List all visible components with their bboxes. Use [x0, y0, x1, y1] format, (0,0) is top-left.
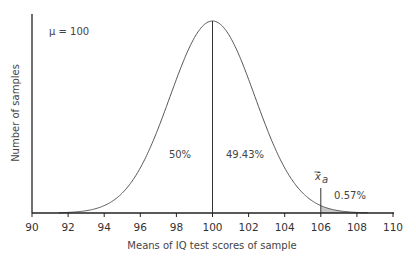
x-axis-label: Means of IQ test scores of sample [127, 240, 296, 251]
region-label-middle: 49.43% [226, 149, 264, 160]
x-tick-label: 92 [61, 221, 74, 233]
x-tick-label: 110 [383, 221, 403, 233]
x-tick-label: 100 [202, 221, 222, 233]
x-axis-ticks: 9092949698100102104106108110 [25, 213, 403, 233]
xbar-marker-label: x̄ [314, 171, 321, 182]
y-axis-label: Number of samples [10, 64, 21, 162]
region-label-tail: 0.57% [334, 190, 366, 201]
x-tick-label: 98 [170, 221, 183, 233]
x-tick-label: 108 [347, 221, 367, 233]
region-label-left: 50% [169, 149, 191, 160]
x-tick-label: 96 [134, 221, 148, 233]
vertical-markers [213, 21, 321, 213]
x-tick-label: 90 [25, 221, 38, 233]
x-tick-label: 104 [275, 221, 295, 233]
x-tick-label: 94 [98, 221, 112, 233]
x-tick-label: 102 [239, 221, 259, 233]
xbar-marker-subscript: a [322, 174, 328, 185]
normal-distribution-chart: 9092949698100102104106108110 μ = 100 50%… [0, 0, 416, 264]
x-tick-label: 106 [311, 221, 331, 233]
mu-annotation: μ = 100 [49, 26, 89, 37]
